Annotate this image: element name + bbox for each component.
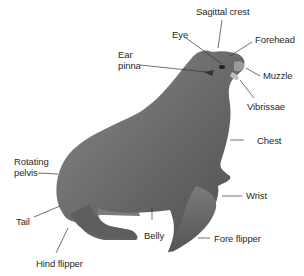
label-sagittal-crest: Sagittal crest bbox=[196, 6, 250, 17]
eye bbox=[219, 65, 225, 69]
label-eye: Eye bbox=[172, 29, 188, 40]
label-rotating-line2: pelvis bbox=[14, 167, 38, 178]
label-fore-flipper: Fore flipper bbox=[214, 233, 261, 244]
muzzle bbox=[234, 61, 244, 71]
label-muzzle: Muzzle bbox=[263, 70, 293, 81]
label-rotating-line1: Rotating bbox=[14, 156, 49, 167]
label-chest: Chest bbox=[257, 135, 281, 146]
label-hind-flipper: Hind flipper bbox=[36, 258, 83, 269]
label-ear-line1: Ear bbox=[118, 49, 132, 60]
label-ear-line2: pinna bbox=[118, 60, 141, 71]
label-vibrissae: Vibrissae bbox=[247, 101, 285, 112]
label-forehead: Forehead bbox=[255, 34, 295, 45]
label-belly: Belly bbox=[144, 230, 164, 241]
label-wrist: Wrist bbox=[246, 190, 267, 201]
label-tail: Tail bbox=[16, 216, 30, 227]
